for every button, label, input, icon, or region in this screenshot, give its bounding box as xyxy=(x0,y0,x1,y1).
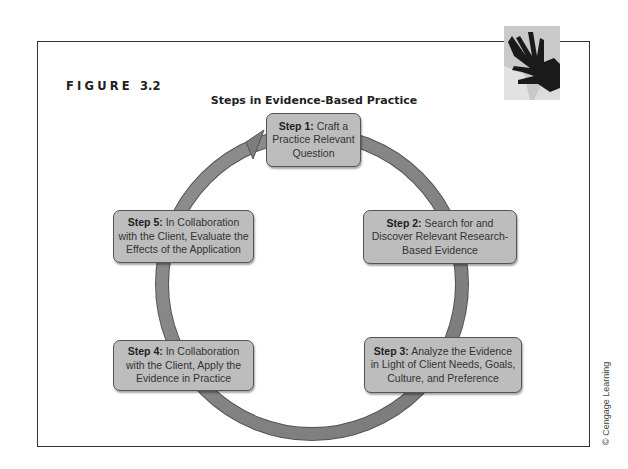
step-1-box: Step 1: Craft a Practice Relevant Questi… xyxy=(266,113,361,167)
step-2-box: Step 2: Search for and Discover Relevant… xyxy=(363,210,517,264)
step-4-box: Step 4: In Collaboration with the Client… xyxy=(113,340,254,391)
step-3-box: Step 3: Analyze the Evidence in Light of… xyxy=(364,337,522,393)
cycle-ring xyxy=(0,0,628,469)
step-1-label: Step 1: xyxy=(279,120,314,132)
step-5-box: Step 5: In Collaboration with the Client… xyxy=(113,210,254,263)
step-5-label: Step 5: xyxy=(128,216,163,228)
copyright-credit: © Cengage Learning xyxy=(601,362,611,445)
step-4-label: Step 4: xyxy=(128,345,163,357)
step-3-label: Step 3: xyxy=(374,345,409,357)
step-2-label: Step 2: xyxy=(387,217,422,229)
